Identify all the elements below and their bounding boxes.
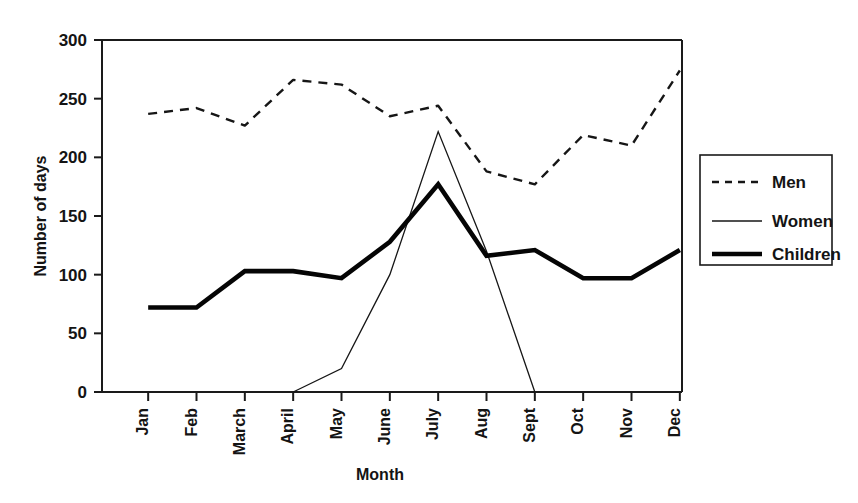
x-tick-label: June	[376, 408, 393, 445]
y-axis-title: Number of days	[32, 155, 49, 276]
y-tick-labels: 050100150200250300	[59, 31, 87, 402]
plot-axes	[102, 40, 682, 392]
x-tick-label: Dec	[666, 408, 683, 437]
x-axis-title: Month	[356, 466, 404, 483]
series-line-men	[148, 71, 680, 185]
x-tick-label: Sept	[521, 407, 538, 442]
x-tick-label: Nov	[618, 408, 635, 438]
x-tick-label: April	[279, 408, 296, 444]
y-tick-label: 150	[59, 207, 87, 226]
x-tick-marks	[148, 392, 680, 401]
x-tick-label: July	[424, 408, 441, 440]
x-tick-label: March	[231, 408, 248, 455]
y-tick-label: 250	[59, 90, 87, 109]
x-tick-label: Feb	[183, 408, 200, 437]
x-tick-label: Aug	[473, 408, 490, 439]
legend-label-men: Men	[772, 173, 806, 192]
x-tick-label: Oct	[569, 407, 586, 434]
x-tick-label: Jan	[134, 408, 151, 436]
line-chart-canvas: 050100150200250300 JanFebMarchAprilMayJu…	[0, 0, 858, 503]
y-tick-label: 200	[59, 148, 87, 167]
y-tick-label: 100	[59, 266, 87, 285]
x-tick-labels: JanFebMarchAprilMayJuneJulyAugSeptOctNov…	[134, 407, 683, 455]
y-tick-label: 0	[78, 383, 87, 402]
legend: Men Women Children	[700, 155, 841, 265]
y-tick-label: 50	[68, 324, 87, 343]
y-tick-label: 300	[59, 31, 87, 50]
data-series-group	[148, 71, 680, 392]
legend-label-women: Women	[772, 212, 833, 231]
series-line-women	[293, 132, 535, 392]
x-tick-label: May	[328, 408, 345, 439]
y-tick-marks	[94, 40, 102, 392]
chart-figure: 050100150200250300 JanFebMarchAprilMayJu…	[0, 0, 858, 503]
legend-label-children: Children	[772, 245, 841, 264]
